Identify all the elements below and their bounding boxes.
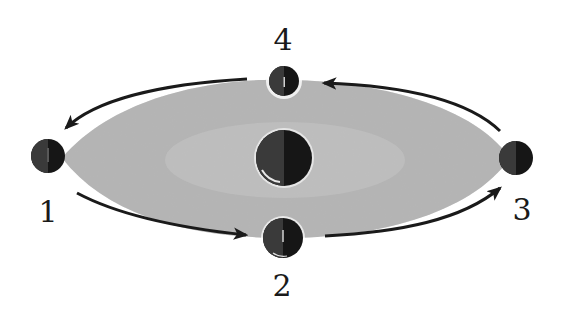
position-body-3: [499, 141, 533, 175]
central-body: [254, 128, 314, 188]
position-body-2: [261, 216, 305, 260]
position-label-3: 3: [512, 192, 531, 227]
position-label-1: 1: [38, 194, 57, 229]
orbit-diagram: 4 1 2 3: [0, 0, 570, 318]
position-body-1: [31, 139, 65, 173]
position-label-4: 4: [273, 22, 292, 57]
position-label-2: 2: [272, 268, 291, 303]
position-body-4: [266, 63, 302, 99]
